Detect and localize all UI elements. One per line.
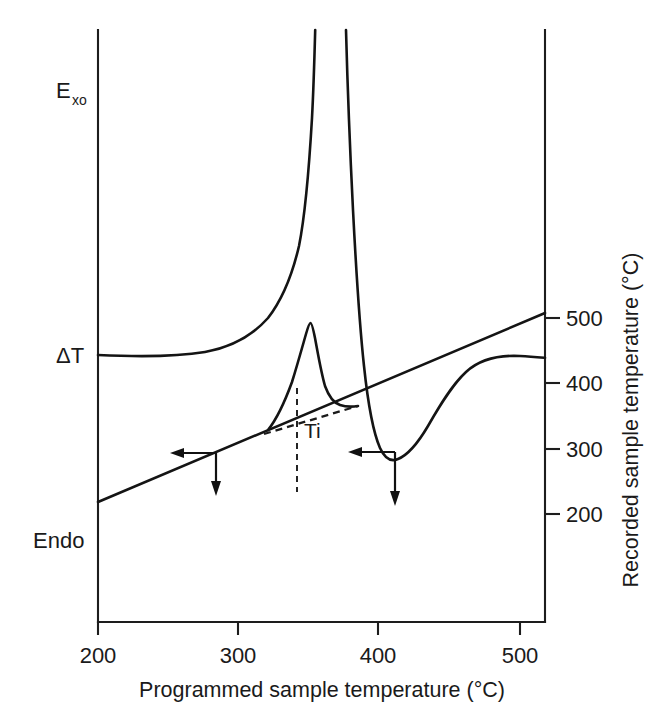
delta-t-label: ΔT — [56, 343, 84, 368]
y-tick-label-200: 200 — [566, 502, 603, 527]
dta-thermogram-figure: 200 300 400 500 500 400 300 200 Programm… — [0, 0, 650, 716]
y-tick-label-300: 300 — [566, 437, 603, 462]
ti-label: Ti — [304, 419, 321, 442]
x-tick-label-500: 500 — [502, 643, 539, 668]
exo-label-subscript: xo — [72, 92, 87, 108]
y-axis-right-title: Recorded sample temperature (°C) — [619, 253, 643, 588]
x-axis-title: Programmed sample temperature (°C) — [139, 678, 505, 702]
x-tick-label-200: 200 — [80, 643, 117, 668]
y-tick-label-400: 400 — [566, 371, 603, 396]
exo-label: E — [56, 78, 71, 103]
x-tick-label-300: 300 — [220, 643, 257, 668]
chart-svg: 200 300 400 500 500 400 300 200 Programm… — [0, 0, 650, 716]
endo-label: Endo — [33, 528, 84, 553]
x-tick-label-400: 400 — [360, 643, 397, 668]
y-tick-label-500: 500 — [566, 306, 603, 331]
